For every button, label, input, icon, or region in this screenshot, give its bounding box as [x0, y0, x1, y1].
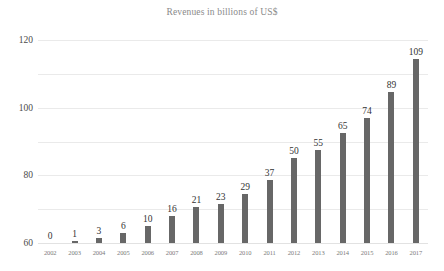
x-axis-tick-label: 2016	[379, 249, 403, 263]
bar-value-label: 23	[216, 192, 226, 202]
bar-slot: 10	[136, 40, 160, 243]
x-axis-tick-label: 2003	[62, 249, 86, 263]
bar[interactable]	[218, 204, 224, 243]
bar[interactable]	[242, 194, 248, 243]
y-axis-tick-label: 120	[0, 35, 33, 45]
bar[interactable]	[267, 180, 273, 243]
bar-slot: 1	[62, 40, 86, 243]
plot-area: 020406080100120 013610162123293750556574…	[38, 40, 428, 243]
bar-slot: 23	[209, 40, 233, 243]
x-axis-tick-label: 2014	[331, 249, 355, 263]
x-axis-tick-label: 2017	[404, 249, 428, 263]
chart-title: Revenues in billions of US$	[0, 7, 444, 17]
bar-value-label: 109	[409, 47, 423, 57]
bar-value-label: 74	[362, 106, 372, 116]
x-axis-tick-label: 2015	[355, 249, 379, 263]
bar-value-label: 10	[143, 214, 153, 224]
bar-value-label: 50	[289, 146, 299, 156]
bar[interactable]	[120, 233, 126, 243]
bar[interactable]	[96, 238, 102, 243]
bar[interactable]	[315, 150, 321, 243]
y-axis-tick-label: 60	[0, 238, 33, 248]
bar-slot: 37	[257, 40, 281, 243]
bar-value-label: 16	[167, 204, 177, 214]
x-axis: 2002200320042005200620072008200920102011…	[38, 249, 428, 263]
bar[interactable]	[193, 207, 199, 243]
bar-value-label: 1	[72, 229, 77, 239]
bar-chart: Revenues in billions of US$ 020406080100…	[0, 0, 444, 271]
bar-slot: 29	[233, 40, 257, 243]
x-axis-tick-label: 2006	[136, 249, 160, 263]
x-axis-tick-label: 2008	[184, 249, 208, 263]
bar-value-label: 65	[338, 121, 348, 131]
x-axis-tick-label: 2002	[38, 249, 62, 263]
x-axis-tick-label: 2005	[111, 249, 135, 263]
bars-layer: 01361016212329375055657489109	[38, 40, 428, 243]
bar-slot: 74	[355, 40, 379, 243]
bar-value-label: 6	[121, 221, 126, 231]
bar-slot: 65	[331, 40, 355, 243]
bar[interactable]	[364, 118, 370, 243]
x-axis-tick-label: 2004	[87, 249, 111, 263]
bar[interactable]	[340, 133, 346, 243]
bar-slot: 55	[306, 40, 330, 243]
bar-slot: 21	[184, 40, 208, 243]
bar-slot: 16	[160, 40, 184, 243]
bar-slot: 109	[404, 40, 428, 243]
x-axis-tick-label: 2012	[282, 249, 306, 263]
gridline: 0	[38, 243, 428, 244]
x-axis-tick-label: 2010	[233, 249, 257, 263]
bar-slot: 3	[87, 40, 111, 243]
bar[interactable]	[169, 216, 175, 243]
bar-value-label: 21	[192, 195, 202, 205]
x-axis-tick-label: 2009	[209, 249, 233, 263]
x-axis-tick-label: 2013	[306, 249, 330, 263]
y-axis-tick-label: 100	[0, 103, 33, 113]
bar[interactable]	[145, 226, 151, 243]
bar-value-label: 0	[48, 231, 53, 241]
bar[interactable]	[413, 59, 419, 243]
bar-slot: 50	[282, 40, 306, 243]
x-axis-tick-label: 2007	[160, 249, 184, 263]
bar[interactable]	[291, 158, 297, 243]
bar-slot: 0	[38, 40, 62, 243]
bar[interactable]	[72, 241, 78, 243]
bar-slot: 6	[111, 40, 135, 243]
x-axis-tick-label: 2011	[257, 249, 281, 263]
bar-slot: 89	[379, 40, 403, 243]
bar-value-label: 89	[387, 80, 397, 90]
bar-value-label: 3	[97, 226, 102, 236]
bar-value-label: 55	[314, 138, 324, 148]
y-axis-tick-label: 80	[0, 170, 33, 180]
bar-value-label: 37	[265, 168, 275, 178]
bar[interactable]	[388, 92, 394, 243]
bar-value-label: 29	[240, 182, 250, 192]
